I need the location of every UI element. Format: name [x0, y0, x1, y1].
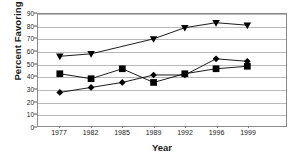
y-axis-tick-label: 80: [27, 22, 34, 29]
x-axis-tick-label: 1985: [114, 128, 130, 137]
x-axis-tick-mark: [122, 126, 123, 128]
x-axis-tick-label: 1982: [83, 128, 99, 137]
x-axis-title: Year: [37, 142, 287, 153]
x-axis-tick-label: 1996: [209, 128, 225, 137]
x-axis-tick-label: 1992: [177, 128, 193, 137]
data-point-marker: [56, 54, 64, 61]
data-point-marker: [56, 70, 63, 77]
x-axis-tick-mark: [59, 126, 60, 128]
y-axis-tick-label: 90: [27, 10, 34, 17]
y-axis-tick-label: 60: [27, 48, 34, 55]
x-axis-tick-mark: [91, 126, 92, 128]
x-axis-tick-mark: [154, 126, 155, 128]
data-point-marker: [150, 72, 157, 79]
chart-figure: Percent Favoring 0102030405060708090 197…: [0, 0, 299, 163]
y-axis-tick-labels: 0102030405060708090: [18, 9, 34, 131]
x-axis-tick-mark: [185, 126, 186, 128]
x-axis-tick-mark: [217, 126, 218, 128]
plot-area: [37, 13, 287, 127]
y-axis-tick-label: 10: [27, 111, 34, 118]
y-axis-tick-label: 40: [27, 73, 34, 80]
data-point-marker: [150, 79, 157, 86]
x-axis-tick-label: 1989: [146, 128, 162, 137]
data-point-marker: [88, 84, 95, 91]
x-axis-tick-label: 1999: [240, 128, 256, 137]
data-point-marker: [119, 79, 126, 86]
x-axis-tick-labels: 1977198219851989199219961999: [37, 128, 287, 140]
y-axis-tick-label: 70: [27, 35, 34, 42]
chart-canvas: [38, 14, 286, 126]
x-axis-tick-label: 1977: [51, 128, 67, 137]
y-axis-tick-label: 50: [27, 60, 34, 67]
y-axis-tick-label: 30: [27, 86, 34, 93]
y-axis-tick-label: 20: [27, 98, 34, 105]
x-axis-tick-mark: [248, 126, 249, 128]
data-point-marker: [213, 55, 220, 62]
data-point-marker: [88, 75, 95, 82]
data-point-marker: [56, 89, 63, 96]
data-point-marker: [119, 65, 126, 72]
data-point-marker: [244, 22, 252, 29]
data-point-marker: [213, 65, 220, 72]
